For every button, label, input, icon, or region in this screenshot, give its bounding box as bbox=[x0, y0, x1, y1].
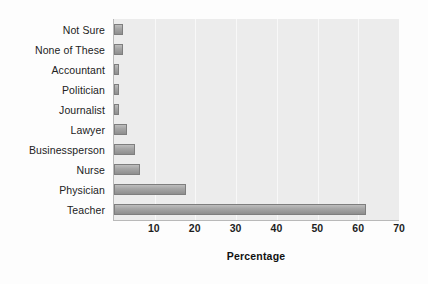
y-axis-tick-label: Politician bbox=[62, 85, 105, 96]
bar-row bbox=[114, 59, 399, 79]
bar bbox=[114, 104, 119, 115]
bar-row bbox=[114, 140, 399, 160]
bar-row bbox=[114, 180, 399, 200]
x-axis-tick-labels: 10203040506070 bbox=[113, 222, 399, 238]
y-axis-tick-label: Journalist bbox=[59, 105, 105, 116]
y-axis-tick-label: Businessperson bbox=[29, 145, 105, 156]
bar-row bbox=[114, 19, 399, 39]
x-axis-tick-label: 40 bbox=[271, 222, 283, 234]
y-axis-tick-label: None of These bbox=[35, 45, 105, 56]
x-axis-tick-label: 10 bbox=[148, 222, 160, 234]
plot-area bbox=[113, 19, 399, 221]
x-axis-tick-label: 50 bbox=[311, 222, 323, 234]
bar bbox=[114, 84, 119, 95]
y-axis-label-row: Journalist bbox=[0, 100, 110, 120]
bar-row bbox=[114, 39, 399, 59]
bar bbox=[114, 144, 135, 155]
bar bbox=[114, 24, 123, 35]
y-axis-tick-label: Not Sure bbox=[63, 25, 105, 36]
bar bbox=[114, 184, 186, 195]
y-axis-category-labels: Not Sure None of These Accountant Politi… bbox=[0, 20, 110, 220]
bars-layer bbox=[114, 19, 399, 220]
bar-row bbox=[114, 119, 399, 139]
y-axis-label-row: Lawyer bbox=[0, 120, 110, 140]
y-axis-label-row: Teacher bbox=[0, 200, 110, 220]
y-axis-label-row: Politician bbox=[0, 80, 110, 100]
y-axis-tick-label: Lawyer bbox=[71, 125, 105, 136]
y-axis-tick-label: Physician bbox=[59, 185, 105, 196]
y-axis-label-row: Businessperson bbox=[0, 140, 110, 160]
bar-row bbox=[114, 160, 399, 180]
bar-chart: Not Sure None of These Accountant Politi… bbox=[0, 0, 428, 284]
bar bbox=[114, 124, 127, 135]
bar-row bbox=[114, 200, 399, 220]
x-axis-tick-label: 20 bbox=[189, 222, 201, 234]
x-axis-tick-label: 60 bbox=[352, 222, 364, 234]
bar bbox=[114, 44, 123, 55]
y-axis-tick-label: Accountant bbox=[51, 65, 105, 76]
y-axis-label-row: Nurse bbox=[0, 160, 110, 180]
y-axis-label-row: None of These bbox=[0, 40, 110, 60]
y-axis-tick-label: Nurse bbox=[76, 165, 105, 176]
y-axis-tick-label: Teacher bbox=[67, 205, 105, 216]
bar bbox=[114, 164, 140, 175]
bar bbox=[114, 204, 366, 215]
y-axis-label-row: Not Sure bbox=[0, 20, 110, 40]
y-axis-label-row: Accountant bbox=[0, 60, 110, 80]
x-axis-title: Percentage bbox=[113, 250, 399, 262]
x-axis-tick-label: 30 bbox=[230, 222, 242, 234]
bar-row bbox=[114, 99, 399, 119]
y-axis-label-row: Physician bbox=[0, 180, 110, 200]
bar-row bbox=[114, 79, 399, 99]
bar bbox=[114, 64, 119, 75]
x-axis-tick-label: 70 bbox=[393, 222, 405, 234]
